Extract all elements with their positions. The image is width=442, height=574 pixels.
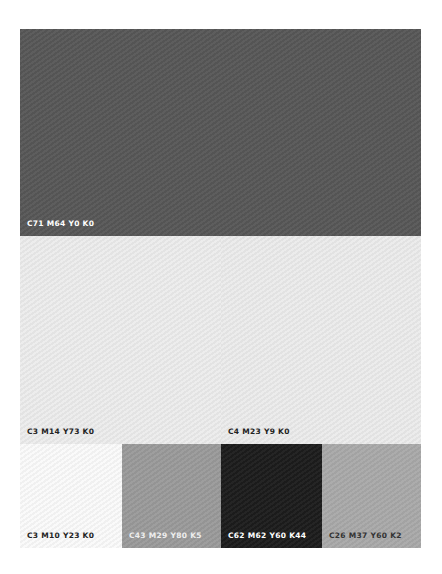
swatch-label: C4 M23 Y9 K0 — [228, 427, 290, 436]
swatch-c71-m64-y0-k0: C71 M64 Y0 K0 — [20, 29, 421, 236]
color-palette: C71 M64 Y0 K0 C3 M14 Y73 K0 C4 M23 Y9 K0… — [20, 29, 421, 548]
swatch-label: C3 M10 Y23 K0 — [27, 531, 94, 540]
swatch-c4-m23-y9-k0: C4 M23 Y9 K0 — [221, 236, 421, 444]
swatch-c26-m37-y60-k2: C26 M37 Y60 K2 — [322, 444, 421, 548]
swatch-c3-m10-y23-k0: C3 M10 Y23 K0 — [20, 444, 122, 548]
swatch-label: C43 M29 Y80 K5 — [129, 531, 202, 540]
swatch-label: C3 M14 Y73 K0 — [27, 427, 94, 436]
swatch-c43-m29-y80-k5: C43 M29 Y80 K5 — [122, 444, 221, 548]
swatch-c62-m62-y60-k44: C62 M62 Y60 K44 — [221, 444, 322, 548]
swatch-label: C62 M62 Y60 K44 — [228, 531, 306, 540]
swatch-c3-m14-y73-k0: C3 M14 Y73 K0 — [20, 236, 221, 444]
swatch-label: C71 M64 Y0 K0 — [27, 219, 94, 228]
swatch-label: C26 M37 Y60 K2 — [329, 531, 402, 540]
